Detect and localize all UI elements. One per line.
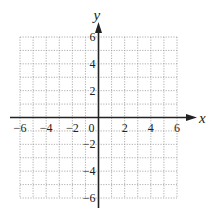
x-tick-label: −4 (40, 121, 53, 135)
y-tick-label: −6 (83, 191, 96, 205)
y-tick-label: 4 (90, 57, 96, 71)
y-axis-arrow-icon (95, 22, 102, 33)
x-tick-label: 6 (174, 121, 180, 135)
axes (10, 22, 197, 208)
x-tick-label: −6 (14, 121, 27, 135)
y-axis-label: y (92, 7, 101, 23)
x-tick-label: 2 (122, 121, 128, 135)
y-tick-label: 6 (90, 30, 96, 44)
y-tick-label: −2 (83, 137, 96, 151)
y-tick-label: 2 (90, 84, 96, 98)
coordinate-plane: −6−4−20246−6−4−2246 x y (0, 0, 210, 216)
x-tick-label: 0 (89, 121, 95, 135)
x-tick-label: −2 (66, 121, 79, 135)
x-axis-arrow-icon (186, 114, 197, 121)
chart-svg: −6−4−20246−6−4−2246 x y (0, 0, 210, 216)
x-axis-label: x (198, 110, 206, 126)
x-tick-label: 4 (148, 121, 154, 135)
y-tick-label: −4 (83, 164, 96, 178)
